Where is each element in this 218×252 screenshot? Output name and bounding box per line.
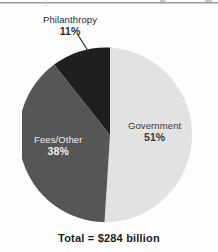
page-top-rule [0,2,218,4]
scan-artifact [44,5,47,6]
scan-artifact [160,0,165,2]
pie-label-philanthropy-percent: 11% [43,26,97,38]
pie-label-government: Government 51% [128,121,181,143]
pie-label-government-percent: 51% [128,132,181,144]
scan-artifact [205,0,212,3]
chart-total-caption: Total = $284 billion [0,232,218,244]
pie-label-fees-other: Fees/Other 38% [34,135,83,157]
pie-chart-figure: Philanthropy 11% Government 51% Fees/Oth… [0,0,218,252]
pie-label-fees-other-percent: 38% [34,146,83,158]
pie-label-philanthropy: Philanthropy 11% [43,15,97,37]
